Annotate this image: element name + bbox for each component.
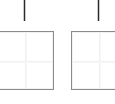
panel-left-gridline-vertical-minor	[26, 33, 27, 88]
panel-right-gridline-horizontal-minor	[73, 62, 115, 63]
panel-right-gridline-horizontal	[73, 61, 115, 62]
panel-right-gridline-vertical	[99, 33, 100, 88]
panel-left-plot-frame[interactable]	[0, 31, 54, 90]
panel-right-tick-marker	[97, 0, 100, 21]
panel-left-gridline-horizontal-minor	[0, 62, 52, 63]
figure-canvas	[0, 0, 115, 104]
panel-right-plot-frame[interactable]	[71, 31, 115, 90]
panel-right-gridline-vertical-minor	[100, 33, 101, 88]
panel-left-gridline-vertical	[25, 33, 26, 88]
panel-left-gridline-horizontal	[0, 61, 52, 62]
panel-left-tick-marker	[23, 0, 26, 21]
